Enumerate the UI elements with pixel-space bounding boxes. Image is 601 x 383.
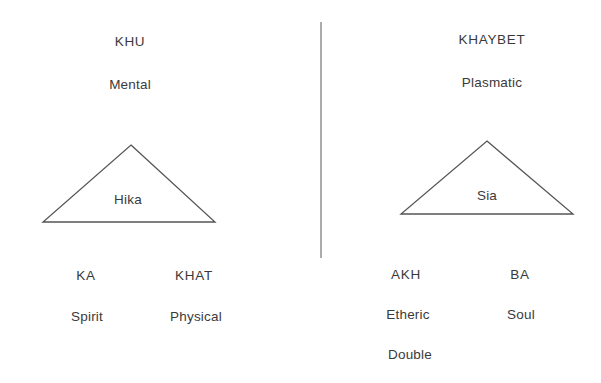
right-column-1-description: Etheric: [386, 308, 429, 322]
left-column-2-name: KHAT: [175, 269, 213, 283]
left-column-1-description: Spirit: [71, 310, 103, 324]
left-triangle-label: Hika: [114, 193, 142, 207]
left-panel-subtitle: Mental: [109, 78, 151, 92]
right-panel-title: KHAYBET: [459, 33, 526, 47]
right-column-2-description: Soul: [507, 308, 535, 322]
diagram-lines: [0, 0, 601, 383]
right-column-1-extra: Double: [388, 348, 432, 362]
left-column-1-name: KA: [76, 269, 95, 283]
right-column-2-name: BA: [510, 268, 529, 282]
soul-diagram: KHU Mental Hika KA Spirit KHAT Physical …: [0, 0, 601, 383]
right-triangle-label: Sia: [477, 189, 497, 203]
left-column-2-description: Physical: [170, 310, 222, 324]
right-panel-subtitle: Plasmatic: [462, 76, 522, 90]
left-triangle: [43, 145, 215, 222]
left-panel-title: KHU: [115, 35, 146, 49]
right-column-1-name: AKH: [391, 268, 421, 282]
